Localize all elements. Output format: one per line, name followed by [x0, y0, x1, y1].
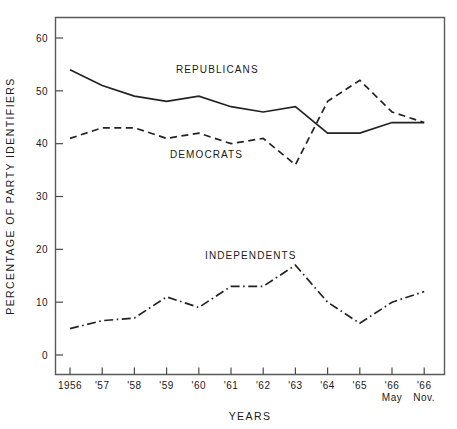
- x-tick-label: '62: [256, 380, 271, 391]
- series-annotation-independents: INDEPENDENTS: [205, 250, 297, 261]
- x-tick-label: '66: [417, 380, 432, 391]
- y-tick-label: 20: [36, 244, 48, 255]
- x-tick-label: '61: [224, 380, 239, 391]
- x-tick-label: '59: [159, 380, 174, 391]
- y-tick-label: 40: [36, 138, 48, 149]
- y-tick-label: 30: [36, 191, 48, 202]
- y-tick-label: 0: [42, 350, 48, 361]
- x-tick-label: '57: [95, 380, 110, 391]
- x-tick-label: '64: [320, 380, 335, 391]
- x-tick-label: 1956: [58, 380, 82, 391]
- x-tick-sublabel: Nov.: [413, 392, 435, 403]
- x-tick-label: '58: [127, 380, 142, 391]
- party-identification-line-chart: 0102030405060 1956'57'58'59'60'61'62'63'…: [0, 0, 457, 429]
- x-tick-label: '63: [288, 380, 303, 391]
- x-tick-label: '65: [353, 380, 368, 391]
- x-axis-title: YEARS: [229, 410, 272, 422]
- x-tick-sublabel: May: [382, 392, 402, 403]
- y-axis-title: PERCENTAGE OF PARTY IDENTIFIERS: [4, 77, 16, 315]
- series-annotation-democrats: DEMOCRATS: [170, 149, 243, 160]
- x-tick-label: '66: [385, 380, 400, 391]
- chart-container: 0102030405060 1956'57'58'59'60'61'62'63'…: [0, 0, 457, 429]
- series-annotation-republicans: REPUBLICANS: [176, 64, 259, 75]
- x-tick-label: '60: [192, 380, 207, 391]
- y-tick-label: 50: [36, 86, 48, 97]
- y-tick-label: 60: [36, 33, 48, 44]
- y-tick-label: 10: [36, 297, 48, 308]
